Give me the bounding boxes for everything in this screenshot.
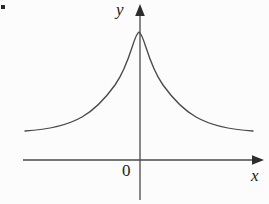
- coordinate-plot-svg: [0, 0, 269, 204]
- y-axis-arrowhead: [135, 4, 145, 16]
- origin-label: 0: [122, 162, 131, 179]
- x-axis-label: x: [251, 167, 259, 184]
- bell-curve-path: [25, 32, 253, 131]
- figure-container: y x 0: [0, 0, 269, 204]
- x-axis-arrowhead: [252, 155, 264, 165]
- y-axis-label: y: [116, 1, 124, 18]
